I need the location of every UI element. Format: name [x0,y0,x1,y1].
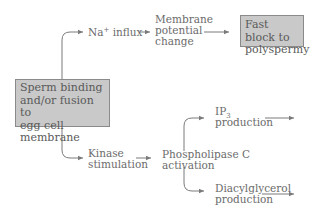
na-influx-label: Na+ influx [88,27,142,38]
plc-activation-label: Phospholipase C activation [162,149,250,171]
fast-block-box: Fast block to polyspermy [240,15,304,47]
membrane-potential-label: Membrane potential change [155,14,213,47]
box-line: and/or fusion to [20,95,105,120]
arrow-to-na-influx [62,32,83,79]
sperm-binding-box: Sperm binding and/or fusion to egg cell … [15,79,110,127]
ip3-production-label: IP3 production [215,106,273,128]
kinase-stimulation-label: Kinase stimulation [88,148,148,170]
dag-production-label: Diacylglycerol production [215,183,291,205]
arrow-to-ip3 [184,118,204,151]
box-line: egg cell membrane [20,120,105,145]
box-line: Sperm binding [20,82,105,95]
